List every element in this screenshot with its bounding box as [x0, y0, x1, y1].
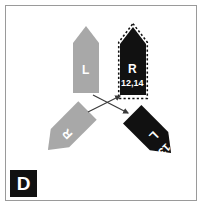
swap-arrow-to-lower-right: [93, 95, 128, 113]
gray-arrow-up-left-body: [73, 26, 99, 93]
figure-panel: L R 12,14 R L 13 D: [0, 0, 202, 206]
gray-arrow-up-left[interactable]: [73, 26, 99, 93]
swap-arrow-to-upper-right: [88, 96, 120, 112]
panel-letter-badge-text: D: [17, 174, 31, 193]
black-arrow-up-right-coordinates: 12,14: [121, 79, 144, 88]
gray-arrow-up-left-label: L: [82, 64, 89, 76]
black-arrow-up-right-label: R: [128, 63, 137, 75]
panel-letter-badge: D: [10, 170, 37, 197]
